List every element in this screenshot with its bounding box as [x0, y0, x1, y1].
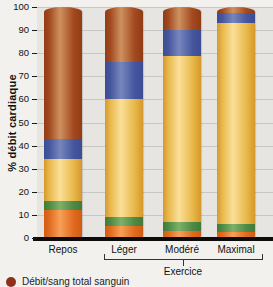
bar-repos [44, 7, 82, 238]
y-tick-mark-20 [32, 192, 37, 193]
segment-yellow [105, 99, 143, 217]
bar-modere [163, 7, 201, 238]
x-label-modere: Modéré [152, 244, 212, 255]
y-tick-label-50: 50 [3, 118, 29, 128]
y-tick-label-30: 30 [3, 164, 29, 174]
y-tick-label-0: 0 [3, 233, 29, 243]
y-tick-mark-80 [32, 53, 37, 54]
exercise-group-label: Exercice [143, 266, 223, 277]
segment-brown [163, 7, 201, 30]
y-tick-mark-90 [32, 30, 37, 31]
exercise-bracket-tick-2 [183, 260, 184, 266]
y-tick-label-40: 40 [3, 141, 29, 151]
exercise-bracket-tick-1 [262, 254, 263, 260]
x-label-maximal: Maximal [206, 244, 266, 255]
segment-blue [217, 13, 255, 23]
segment-green [163, 222, 201, 231]
y-tick-mark-30 [32, 169, 37, 170]
segment-blue [163, 30, 201, 55]
y-tick-label-60: 60 [3, 94, 29, 104]
legend-item-label: Débit/sang total sanguin [22, 276, 129, 287]
y-tick-mark-10 [32, 215, 37, 216]
y-tick-mark-40 [32, 146, 37, 147]
plot-area [37, 7, 273, 238]
segment-green [44, 201, 82, 210]
y-tick-label-90: 90 [3, 25, 29, 35]
segment-green [105, 217, 143, 226]
segment-green [217, 224, 255, 232]
segment-yellow [163, 56, 201, 222]
x-label-leger: Léger [94, 244, 154, 255]
legend: Débit/sang total sanguin [6, 276, 129, 287]
segment-yellow [44, 159, 82, 201]
x-axis-line [33, 237, 273, 241]
segment-blue [44, 139, 82, 160]
x-label-repos: Repos [33, 244, 93, 255]
chart-figure: % débit cardiaque Exercice Débit/sang to… [0, 0, 273, 287]
bar-leger [105, 7, 143, 238]
segment-yellow [217, 23, 255, 224]
y-tick-mark-0 [32, 238, 37, 239]
y-tick-mark-70 [32, 76, 37, 77]
bar-maximal [217, 7, 255, 238]
y-tick-mark-50 [32, 123, 37, 124]
y-tick-label-100: 100 [3, 2, 29, 12]
legend-marker-circle [6, 277, 16, 287]
y-tick-label-70: 70 [3, 71, 29, 81]
y-tick-label-80: 80 [3, 48, 29, 58]
y-tick-mark-100 [32, 7, 37, 8]
segment-blue [105, 62, 143, 99]
y-tick-label-20: 20 [3, 187, 29, 197]
segment-brown [44, 7, 82, 139]
segment-brown [105, 7, 143, 62]
exercise-bracket-tick-0 [104, 254, 105, 260]
segment-orange [44, 210, 82, 238]
y-tick-label-10: 10 [3, 210, 29, 220]
y-tick-mark-60 [32, 99, 37, 100]
